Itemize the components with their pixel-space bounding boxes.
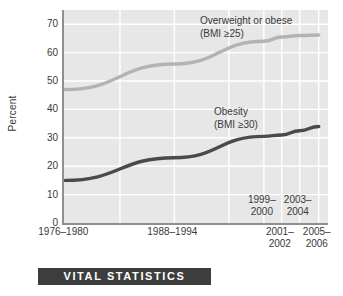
vital-statistics-chart: Percent 010203040506070 Overweight or ob… <box>0 0 343 296</box>
x-tick-label: 2005–2006 <box>277 226 343 250</box>
x-tick-label: 2003–2004 <box>258 194 338 218</box>
x-tick-label: 1976–1980 <box>23 226 103 238</box>
x-tick-label-line1: 2005– <box>303 226 331 237</box>
x-tick-label-line1: 2003– <box>284 194 312 205</box>
x-axis-tick-labels: 1976–19801988–19941999–20002001–20022003… <box>0 0 343 296</box>
x-tick-label-line1: 1976–1980 <box>38 226 88 237</box>
x-tick-label-line1: 1988–1994 <box>147 226 197 237</box>
vital-statistics-banner-label: VITAL STATISTICS <box>64 271 186 282</box>
x-tick-label-line2: 2004 <box>258 206 338 218</box>
vital-statistics-banner: VITAL STATISTICS <box>38 268 211 285</box>
x-tick-label-line2: 2006 <box>277 238 343 250</box>
x-tick-label: 1988–1994 <box>132 226 212 238</box>
